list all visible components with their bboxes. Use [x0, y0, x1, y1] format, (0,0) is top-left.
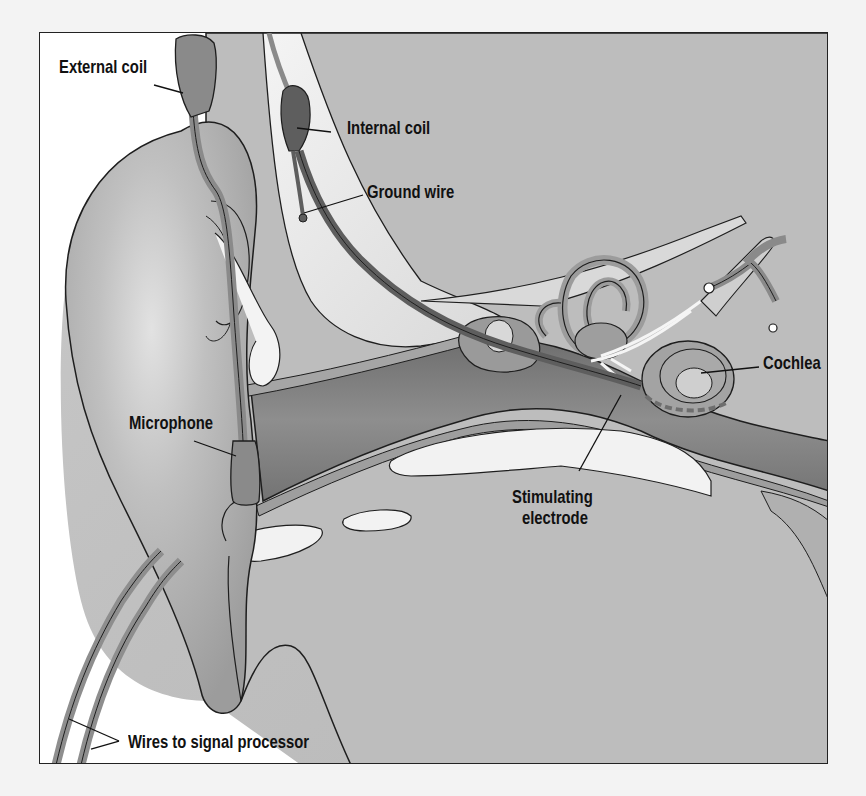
- label-stimulating-electrode-2: electrode: [522, 508, 588, 528]
- label-external-coil: External coil: [59, 57, 147, 77]
- vessel-opening-1: [704, 283, 714, 293]
- vessel-opening-2: [769, 324, 777, 332]
- diagram-frame: [39, 32, 828, 764]
- microphone: [231, 441, 260, 505]
- label-internal-coil: Internal coil: [347, 118, 430, 138]
- label-microphone: Microphone: [129, 413, 213, 433]
- ear-illustration: [40, 33, 828, 764]
- ground-wire-tip: [299, 214, 307, 222]
- label-ground-wire: Ground wire: [367, 182, 454, 202]
- label-stimulating-electrode-1: Stimulating: [512, 487, 593, 507]
- cochlea: [642, 341, 734, 417]
- label-wires-to-signal-processor: Wires to signal processor: [128, 732, 309, 752]
- label-cochlea: Cochlea: [763, 353, 821, 373]
